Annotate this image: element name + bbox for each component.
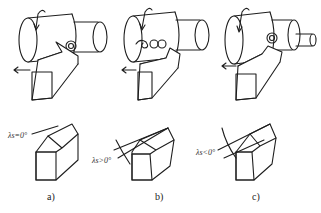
panel-c-lathe-setup [222,8,316,100]
panel-b-lathe-setup [122,8,209,100]
caption-b: b) [155,191,163,202]
panel-c-tool-tip [218,124,276,180]
diagram-canvas [0,0,321,213]
feed-arrow-icon [122,67,136,73]
chip-curl-icon [267,33,277,43]
cutting-tool-icon [138,48,180,100]
caption-a: a) [47,191,55,202]
angle-label-a: λs=0° [8,131,27,140]
cutting-tool-icon [236,46,282,100]
panel-b-tool-tip [114,128,174,180]
angle-label-c: λs<0° [196,148,215,157]
workpiece-cylinder-icon [124,12,209,62]
angle-label-b: λs>0° [92,156,111,165]
feed-arrow-icon [14,67,30,73]
rotation-arrow-icon [140,8,152,30]
caption-c: c) [252,191,260,202]
panel-a-lathe-setup [14,10,107,100]
rotation-arrow-icon [34,10,45,30]
panel-a-tool-tip [32,124,78,180]
